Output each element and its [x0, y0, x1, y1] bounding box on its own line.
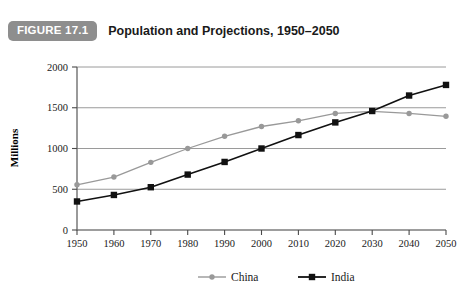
- x-tick-label: 1980: [177, 238, 198, 249]
- y-tick-label: 500: [52, 184, 68, 195]
- x-tick-label: 2030: [362, 238, 383, 249]
- legend-label: China: [231, 271, 258, 283]
- data-point-marker: [259, 124, 264, 129]
- y-tick-label: 1500: [47, 102, 68, 113]
- x-tick-label: 2000: [251, 238, 272, 249]
- x-tick-label: 2040: [399, 238, 420, 249]
- legend-item-india: India: [298, 271, 355, 283]
- data-point-marker: [443, 82, 449, 88]
- x-tick-label: 1960: [103, 238, 124, 249]
- figure-title: Population and Projections, 1950–2050: [108, 24, 339, 38]
- data-point-marker: [148, 184, 154, 190]
- chart-legend: ChinaIndia: [198, 271, 355, 283]
- data-point-marker: [74, 198, 80, 204]
- series-line: [77, 85, 446, 202]
- y-axis-tick-labels: 0500100015002000: [47, 62, 68, 236]
- chart-plot-area: 0500100015002000 19501960197019801990200…: [0, 52, 459, 303]
- data-point-marker: [111, 192, 117, 198]
- data-point-marker: [406, 92, 412, 98]
- x-tick-label: 2010: [288, 238, 309, 249]
- figure-number-badge: FIGURE 17.1: [8, 21, 97, 42]
- x-tick-label: 2020: [325, 238, 346, 249]
- x-tick-label: 1970: [140, 238, 161, 249]
- x-tick-label: 1950: [67, 238, 88, 249]
- data-point-marker: [406, 111, 411, 116]
- data-point-marker: [333, 111, 338, 116]
- line-chart: 0500100015002000 19501960197019801990200…: [0, 52, 459, 303]
- data-point-marker: [296, 118, 301, 123]
- data-point-marker: [443, 114, 448, 119]
- legend-marker: [309, 274, 315, 280]
- x-axis-ticks: [77, 230, 446, 235]
- x-tick-label: 2050: [436, 238, 457, 249]
- series-india: [74, 82, 449, 205]
- y-axis-title: Millions: [8, 128, 20, 167]
- legend-item-china: China: [198, 271, 258, 283]
- data-point-marker: [111, 174, 116, 179]
- data-point-marker: [369, 108, 375, 114]
- data-point-marker: [258, 145, 264, 151]
- y-axis-ticks: [72, 67, 77, 230]
- legend-label: India: [331, 271, 355, 283]
- figure-header: FIGURE 17.1 Population and Projections, …: [0, 19, 459, 43]
- data-point-marker: [332, 119, 338, 125]
- y-tick-label: 2000: [47, 62, 68, 73]
- figure-container: FIGURE 17.1 Population and Projections, …: [0, 0, 459, 303]
- data-point-marker: [148, 160, 153, 165]
- data-point-marker: [221, 159, 227, 165]
- x-axis-tick-labels: 1950196019701980199020002010202020302040…: [67, 238, 457, 249]
- y-tick-label: 0: [63, 225, 68, 236]
- y-tick-label: 1000: [47, 143, 68, 154]
- data-point-marker: [185, 146, 190, 151]
- data-point-marker: [295, 132, 301, 138]
- legend-marker: [209, 274, 214, 279]
- x-tick-label: 1990: [214, 238, 235, 249]
- data-point-marker: [222, 134, 227, 139]
- chart-series-layer: [74, 82, 449, 205]
- data-point-marker: [74, 182, 79, 187]
- data-point-marker: [185, 171, 191, 177]
